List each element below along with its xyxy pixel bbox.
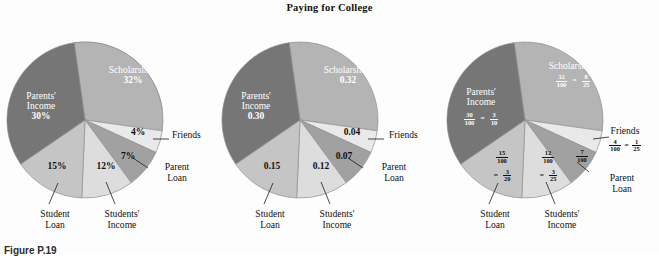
student-loan-name1: Student	[255, 208, 284, 219]
outlabel-friends: Friends	[389, 130, 418, 141]
slice-scholarships-main	[514, 42, 603, 131]
parent-loan-name2: Loan	[167, 172, 187, 183]
pie-chart-fraction: Scholarships 32 100 = 8 25 Parents' Inco…	[440, 0, 659, 253]
outlabel-students-income: Students' Income	[526, 209, 598, 230]
outlabel-students-income: Students' Income	[301, 209, 373, 230]
friends-name: Friends	[611, 125, 640, 136]
outlabel-student-loan: Student Loan	[462, 209, 528, 230]
student-loan-name1: Student	[40, 208, 69, 219]
friends-fraction: 4 100 = 1 25	[600, 139, 650, 153]
students-income-name2: Income	[323, 219, 352, 230]
students-income-name2: Income	[548, 219, 577, 230]
equals-sign: =	[623, 142, 630, 150]
slice-scholarships-main	[74, 42, 163, 131]
figure-caption: Figure P.19	[4, 245, 57, 256]
students-income-name1: Students'	[105, 208, 140, 219]
student-loan-name2: Loan	[260, 219, 280, 230]
outlabel-student-loan: Student Loan	[22, 209, 88, 230]
pie-chart-percent: Scholarships 32% Parents' Income 30% 15%…	[0, 0, 215, 253]
denominator: 100	[609, 146, 621, 153]
friends-name: Friends	[172, 129, 201, 140]
pie-chart-decimal: Scholarships 0.32 Parents' Income 0.30 0…	[215, 0, 440, 253]
outlabel-students-income: Students' Income	[86, 209, 158, 230]
students-income-name1: Students'	[320, 208, 355, 219]
student-loan-name2: Loan	[485, 219, 505, 230]
parent-loan-name2: Loan	[384, 172, 404, 183]
parent-loan-name1: Parent	[382, 161, 407, 172]
student-loan-name2: Loan	[45, 219, 65, 230]
students-income-name2: Income	[108, 219, 137, 230]
friends-name: Friends	[389, 129, 418, 140]
fraction-1-25: 1 25	[632, 139, 640, 153]
parent-loan-name1: Parent	[165, 161, 190, 172]
outlabel-student-loan: Student Loan	[237, 209, 303, 230]
student-loan-name1: Student	[480, 208, 509, 219]
outlabel-friends: Friends 4 100 = 1 25	[600, 126, 650, 153]
parent-loan-name2: Loan	[612, 183, 632, 194]
parent-loan-name1: Parent	[610, 172, 635, 183]
outlabel-parent-loan: Parent Loan	[153, 162, 201, 183]
outlabel-friends: Friends	[172, 130, 201, 141]
outlabel-parent-loan: Parent Loan	[598, 173, 646, 194]
denominator: 25	[632, 146, 640, 153]
outlabel-parent-loan: Parent Loan	[370, 162, 418, 183]
students-income-name1: Students'	[545, 208, 580, 219]
fraction-4-100: 4 100	[609, 139, 621, 153]
slice-scholarships-main	[289, 42, 378, 131]
